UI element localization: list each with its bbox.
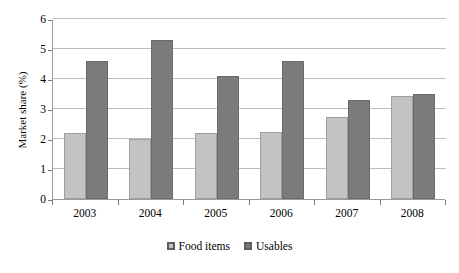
chart-legend: Food itemsUsables (0, 240, 459, 252)
x-axis-tick-mark (118, 200, 119, 205)
x-axis-tick-mark (380, 200, 381, 205)
gridline (53, 168, 446, 169)
gridline (53, 138, 446, 139)
y-axis-tick-label: 3 (6, 104, 46, 116)
bar-group (195, 19, 239, 199)
legend-entry: Food items (167, 240, 230, 252)
bar (391, 96, 413, 199)
y-axis-tick-label: 0 (6, 194, 46, 206)
gridline (53, 108, 446, 109)
legend-entry: Usables (244, 240, 292, 252)
x-axis-tick-label: 2007 (312, 207, 382, 220)
bar-chart: Market share (%) 0123456 200320042005200… (0, 0, 459, 273)
x-axis-tick-label: 2008 (377, 207, 447, 220)
y-axis-tick-label: 1 (6, 164, 46, 176)
legend-swatch-icon (244, 242, 252, 250)
x-axis-tick-label: 2006 (246, 207, 316, 220)
x-axis-tick-mark (52, 200, 53, 205)
legend-label: Usables (256, 240, 292, 252)
gridline (53, 78, 446, 79)
bar-group (64, 19, 108, 199)
y-axis-tick-label: 5 (6, 44, 46, 56)
bar (282, 61, 304, 199)
x-axis-tick-label: 2004 (115, 207, 185, 220)
bar (260, 132, 282, 200)
legend-swatch-icon (167, 242, 175, 250)
bar (151, 40, 173, 199)
x-axis-tick-mark (183, 200, 184, 205)
y-axis-tick-label: 2 (6, 134, 46, 146)
bar-group (129, 19, 173, 199)
bar (195, 133, 217, 199)
bar-group (391, 19, 435, 199)
bar (413, 94, 435, 199)
y-axis-tick-label: 4 (6, 74, 46, 86)
y-axis-tick-label: 6 (6, 14, 46, 26)
legend-label: Food items (179, 240, 230, 252)
bar (64, 133, 86, 199)
gridline (53, 48, 446, 49)
x-axis-tick-label: 2003 (50, 207, 120, 220)
bar-group (326, 19, 370, 199)
bar (217, 76, 239, 199)
bar-group (260, 19, 304, 199)
plot-area (52, 20, 445, 200)
x-axis-tick-mark (445, 200, 446, 205)
bar (326, 117, 348, 200)
x-axis-tick-label: 2005 (181, 207, 251, 220)
bar (129, 139, 151, 199)
bar (86, 61, 108, 199)
gridline (53, 18, 446, 19)
x-axis-tick-mark (314, 200, 315, 205)
bar (348, 100, 370, 199)
x-axis-tick-mark (249, 200, 250, 205)
